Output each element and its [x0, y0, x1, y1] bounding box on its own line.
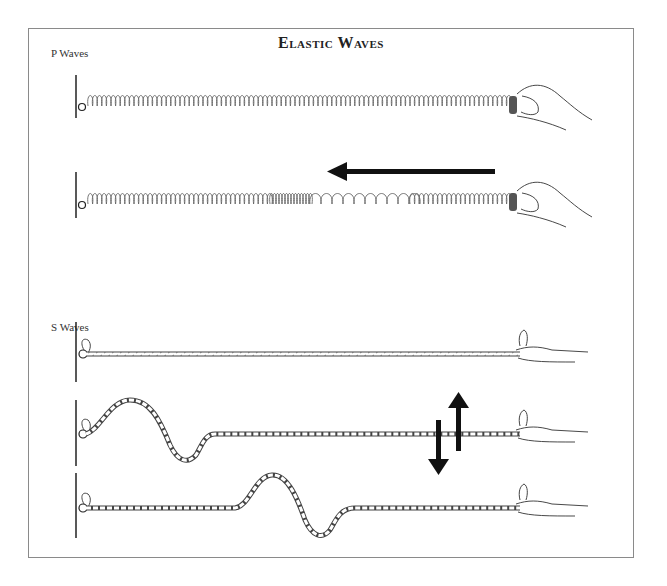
hand-icon	[517, 182, 592, 227]
hand-icon	[517, 85, 592, 130]
s-wave-panel-near-wall	[76, 400, 588, 466]
spring-coils	[88, 96, 512, 107]
elastic-waves-illustration	[0, 0, 667, 586]
hand-icon	[516, 501, 588, 516]
s-wave-panel-rest	[76, 322, 588, 382]
rope-knot-icon	[79, 350, 87, 358]
p-wave-panel-rest	[76, 75, 592, 130]
p-wave-panel-pulse	[76, 172, 592, 227]
rope-knot-icon	[79, 504, 87, 512]
spring-coils-compressed	[88, 194, 512, 205]
s-wave-panel-mid	[76, 473, 588, 538]
spring-end-cap-icon	[509, 193, 517, 211]
rope	[86, 475, 520, 535]
arrow-left-icon	[327, 162, 495, 181]
rope-tail-icon	[519, 330, 527, 346]
rope-tail-icon	[519, 410, 527, 426]
hand-icon	[516, 427, 588, 442]
anchor-ring-icon	[79, 104, 86, 111]
spring-end-cap-icon	[509, 96, 517, 114]
anchor-ring-icon	[79, 202, 86, 209]
rope-tail-icon	[519, 484, 527, 500]
rope	[86, 400, 520, 460]
hand-icon	[516, 347, 588, 362]
rope-knot-icon	[79, 430, 87, 438]
